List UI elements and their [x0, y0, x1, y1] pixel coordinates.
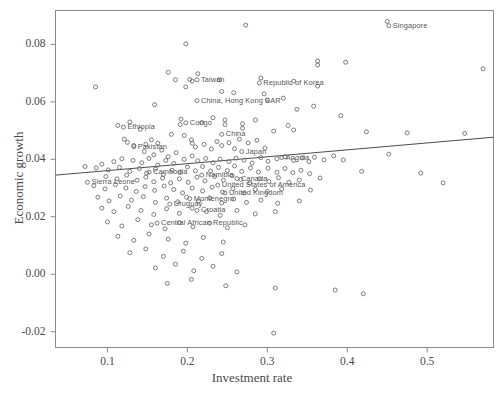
point-label: Japan [246, 147, 267, 156]
point-label: Ethiopia [127, 122, 155, 131]
point-label: Uruguay [174, 199, 203, 208]
point-label: Central African Republic [161, 218, 243, 227]
point-label: Sierra Leone [91, 177, 135, 186]
y-axis-title: Economic growth [11, 98, 27, 258]
data-points [83, 19, 485, 335]
point-label: China [226, 129, 246, 138]
point-label: China, Hong Kong SAR [201, 96, 281, 105]
x-tick-label: 0.5 [407, 355, 447, 367]
x-tick-label: 0.1 [87, 355, 127, 367]
x-tick-label: 0.4 [327, 355, 367, 367]
point-label: Republic of Korea [263, 78, 323, 87]
x-axis-title: Investment rate [0, 370, 504, 386]
point-label: Pakistan [138, 142, 167, 151]
point-label: United Kingdom [229, 188, 283, 197]
regression-line [56, 137, 494, 175]
scatter-plot-figure: Investment rate Economic growth 0.10.20.… [0, 0, 504, 395]
y-tick-label: -0.02 [6, 325, 46, 337]
point-label: Singapore [393, 21, 428, 30]
y-tick-label: 0.06 [6, 95, 46, 107]
point-label: Namibia [206, 170, 234, 179]
y-tick-label: 0.08 [6, 37, 46, 49]
point-label: Taiwan [201, 75, 225, 84]
point-label: Cambodia [153, 167, 188, 176]
plot-canvas [0, 0, 504, 395]
y-tick-label: 0.04 [6, 152, 46, 164]
point-label: Angola [286, 153, 310, 162]
point-label: Congo [190, 118, 212, 127]
y-tick-label: 0.02 [6, 210, 46, 222]
tick-marks [51, 44, 428, 352]
y-tick-label: 0.00 [6, 267, 46, 279]
x-tick-label: 0.3 [247, 355, 287, 367]
x-tick-label: 0.2 [167, 355, 207, 367]
point-label: Croatia [201, 205, 226, 214]
